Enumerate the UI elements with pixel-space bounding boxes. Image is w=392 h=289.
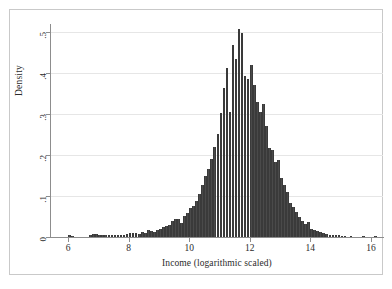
x-tick-label: 12 — [240, 243, 260, 253]
x-tick — [310, 238, 311, 242]
x-tick — [129, 238, 130, 242]
x-axis-line — [50, 237, 384, 238]
histogram-bars — [50, 24, 384, 237]
x-tick — [250, 238, 251, 242]
x-tick-label: 10 — [179, 243, 199, 253]
x-axis-label: Income (logarithmic scaled) — [50, 258, 384, 268]
y-tick-label: .4 — [38, 73, 48, 115]
y-tick-label: .5 — [38, 32, 48, 74]
y-axis-label: Density — [14, 65, 24, 96]
y-tick-label: .2 — [38, 155, 48, 197]
x-tick — [68, 238, 69, 242]
y-axis-line — [50, 24, 51, 238]
x-tick — [189, 238, 190, 242]
x-tick-label: 8 — [119, 243, 139, 253]
x-tick-label: 6 — [58, 243, 78, 253]
x-tick-label: 14 — [300, 243, 320, 253]
histogram-figure: 0.1.2.3.4.5 6810121416 Density Income (l… — [0, 0, 392, 289]
x-tick — [371, 238, 372, 242]
y-tick-label: .3 — [38, 114, 48, 156]
x-tick-label: 16 — [361, 243, 381, 253]
y-tick-label: .1 — [38, 196, 48, 238]
y-tick-label: 0 — [38, 237, 48, 279]
